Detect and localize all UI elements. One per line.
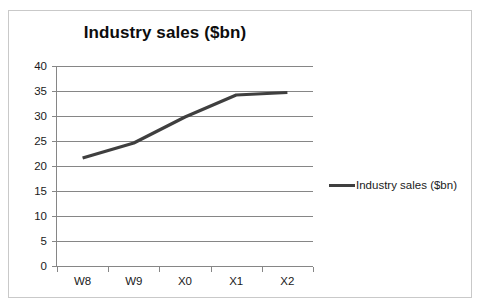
x-axis-tick-label: W9 bbox=[114, 275, 154, 287]
y-axis-tick-label: 15 bbox=[21, 185, 47, 197]
x-axis-tick-label: W8 bbox=[63, 275, 103, 287]
legend-line-swatch bbox=[329, 184, 355, 187]
y-axis-tick-label: 25 bbox=[21, 135, 47, 147]
y-axis-tick-label: 5 bbox=[21, 235, 47, 247]
y-axis-tick-label: 35 bbox=[21, 85, 47, 97]
chart-legend: Industry sales ($bn) bbox=[329, 179, 457, 191]
gridline bbox=[57, 266, 313, 267]
y-axis-tick-mark bbox=[52, 141, 57, 142]
y-axis-tick-label: 10 bbox=[21, 210, 47, 222]
x-axis-tick-mark bbox=[262, 267, 263, 272]
y-axis-tick-label: 40 bbox=[21, 60, 47, 72]
y-axis-tick-label: 30 bbox=[21, 110, 47, 122]
y-axis-tick-mark bbox=[52, 91, 57, 92]
series-line-industry-sales bbox=[57, 66, 313, 266]
y-axis-tick-mark bbox=[52, 116, 57, 117]
chart-title: Industry sales ($bn) bbox=[9, 23, 321, 43]
y-axis-tick-mark bbox=[52, 241, 57, 242]
x-axis-tick-label: X0 bbox=[165, 275, 205, 287]
x-axis-tick-mark bbox=[159, 267, 160, 272]
y-axis-tick-label: 20 bbox=[21, 160, 47, 172]
x-axis-tick-mark bbox=[313, 267, 314, 272]
y-axis-tick-mark bbox=[52, 166, 57, 167]
x-axis-tick-mark bbox=[108, 267, 109, 272]
y-axis-tick-mark bbox=[52, 66, 57, 67]
chart-frame: Industry sales ($bn) 0510152025303540 In… bbox=[8, 10, 472, 298]
x-axis-tick-label: X1 bbox=[216, 275, 256, 287]
y-axis-tick-label: 0 bbox=[21, 260, 47, 272]
y-axis-tick-mark bbox=[52, 216, 57, 217]
y-axis-tick-mark bbox=[52, 191, 57, 192]
x-axis-tick-label: X2 bbox=[267, 275, 307, 287]
y-axis-tick-labels: 0510152025303540 bbox=[21, 66, 47, 266]
x-axis-tick-mark bbox=[57, 267, 58, 272]
legend-label-industry-sales: Industry sales ($bn) bbox=[355, 179, 457, 191]
x-axis-tick-mark bbox=[211, 267, 212, 272]
